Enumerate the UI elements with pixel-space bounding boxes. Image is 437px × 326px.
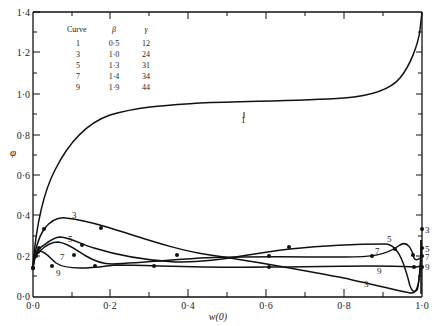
y-axis-label: φ: [10, 146, 16, 158]
y-tick-label: 0·2: [17, 251, 30, 262]
legend-cell: 1·9: [109, 83, 120, 92]
legend-cell: 9: [76, 83, 80, 92]
legend-cell: 1·0: [109, 50, 120, 59]
y-tick-label: 0·4: [17, 210, 30, 221]
curve-label-9-right: 9: [377, 266, 382, 276]
legend-cell: 5: [76, 61, 80, 70]
legend-table: Curve β γ 1 0·5 12 3 1·0 24 5 1·3 31 7 1…: [67, 25, 150, 92]
curve-label-3-edge: 3: [425, 225, 430, 235]
curves: [33, 12, 422, 294]
y-tick-label: 0·6: [17, 170, 30, 181]
x-tick-labels: 0·0 0·2 0·4 0·6 0·8 1·0: [26, 300, 428, 311]
x-tick-label: 0·4: [181, 300, 194, 311]
curve-7: [33, 242, 421, 268]
legend-cell: 1: [76, 39, 80, 48]
curve-label-1: 1: [241, 115, 246, 125]
legend-header-beta: β: [111, 25, 116, 34]
curve-label-7-edge: 7: [425, 252, 430, 262]
y-tick-label: 1·0: [17, 89, 30, 100]
legend-header-curve: Curve: [67, 25, 87, 34]
curve-1: [33, 12, 422, 264]
curve-3: [33, 218, 421, 293]
curve-labels: 1 3 5 7 9 5 7 9 3 3 5 7 9: [56, 115, 430, 289]
legend-header-gamma: γ: [144, 25, 148, 34]
chart-svg: 1·4 1·2 1·0 0·8 0·6 0·4 0·2 0·0 0·0 0·2 …: [0, 0, 437, 326]
x-axis-label: w(0): [209, 311, 228, 323]
x-tick-label: 0·6: [259, 300, 272, 311]
legend-cell: 0·5: [109, 39, 120, 48]
curve-label-7-right: 7: [375, 246, 380, 256]
legend-cell: 3: [76, 50, 80, 59]
curve-label-9: 9: [56, 268, 61, 278]
legend-cell: 12: [142, 39, 150, 48]
legend-cell: 44: [142, 83, 150, 92]
y-tick-label: 1·2: [17, 47, 30, 58]
legend-cell: 24: [142, 50, 150, 59]
y-tick-label: 0·8: [17, 130, 30, 141]
curve-label-5-right: 5: [387, 234, 392, 244]
curve-label-5: 5: [68, 234, 73, 244]
x-tick-label: 0·0: [26, 300, 39, 311]
legend-cell: 7: [76, 72, 80, 81]
y-tick-labels: 1·4 1·2 1·0 0·8 0·6 0·4 0·2 0·0: [17, 7, 30, 302]
markers: [31, 226, 424, 270]
y-tick-label: 1·4: [17, 7, 30, 18]
curve-label-3: 3: [72, 210, 77, 220]
x-tick-label: 0·8: [337, 300, 350, 311]
curve-label-3-right: 3: [364, 279, 369, 289]
legend-cell: 31: [142, 61, 150, 70]
x-tick-label: 0·2: [103, 300, 116, 311]
y-ticks: [33, 12, 422, 276]
legend-cell: 34: [142, 72, 150, 81]
x-tick-label: 1·0: [415, 300, 428, 311]
curve-label-7: 7: [60, 252, 65, 262]
axes: [33, 12, 422, 297]
legend-cell: 1·3: [109, 61, 120, 70]
legend-cell: 1·4: [109, 72, 120, 81]
curve-label-9-edge: 9: [425, 262, 430, 272]
curve-5: [33, 237, 421, 291]
